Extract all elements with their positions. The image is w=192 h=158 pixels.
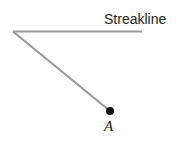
- point-a-marker: [106, 107, 114, 115]
- streakline-label: Streakline: [104, 11, 166, 27]
- point-a-label: A: [103, 118, 114, 134]
- streakline-diagram: Streakline A: [0, 0, 192, 158]
- streakline-diagonal-segment: [13, 32, 110, 112]
